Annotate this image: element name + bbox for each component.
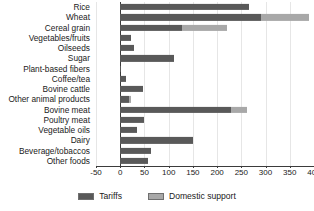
bar-row: [96, 2, 314, 12]
y-axis-label: Cereal grain: [0, 23, 93, 33]
chart-legend: TariffsDomestic support: [0, 188, 314, 204]
bar-segment-tariffs[interactable]: [120, 25, 182, 31]
y-axis-label: Bovine meat: [0, 105, 93, 115]
legend-label: Domestic support: [169, 191, 236, 201]
bar-segment-tariffs[interactable]: [120, 35, 131, 41]
plot-area: [96, 2, 314, 166]
legend-swatch: [148, 193, 164, 200]
x-axis-tick-label: 200: [210, 168, 223, 177]
bar-segment-tariffs[interactable]: [120, 158, 148, 164]
y-axis-label: Bovine cattle: [0, 84, 93, 94]
bar-segment-domestic-support[interactable]: [231, 107, 247, 113]
y-axis-label: Other foods: [0, 156, 93, 166]
bar-row: [96, 23, 314, 33]
y-axis-label: Wheat: [0, 12, 93, 22]
y-axis-label: Rice: [0, 2, 93, 12]
legend-swatch: [78, 193, 94, 200]
y-axis-label: Beverage/tobaccos: [0, 146, 93, 156]
bar-row: [96, 115, 314, 125]
x-axis-tick-label: -50: [90, 168, 102, 177]
legend-item[interactable]: Tariffs: [78, 191, 122, 201]
x-axis-tick-label: 250: [235, 168, 248, 177]
bar-row: [96, 64, 314, 74]
y-axis-label: Other animal products: [0, 94, 93, 104]
bar-segment-tariffs[interactable]: [120, 45, 134, 51]
stacked-bar[interactable]: [120, 66, 121, 72]
stacked-bar[interactable]: [120, 117, 144, 123]
bars-container: [96, 2, 314, 166]
stacked-bar[interactable]: [120, 137, 193, 143]
bar-chart: RiceWheatCereal grainVegetables/fruitsOi…: [0, 0, 314, 211]
stacked-bar[interactable]: [120, 76, 125, 82]
bar-segment-tariffs[interactable]: [120, 107, 230, 113]
y-axis-label: Oilseeds: [0, 43, 93, 53]
stacked-bar[interactable]: [120, 14, 309, 20]
y-axis-label: Dairy: [0, 135, 93, 145]
bar-segment-tariffs[interactable]: [120, 148, 151, 154]
stacked-bar[interactable]: [120, 158, 148, 164]
stacked-bar[interactable]: [120, 55, 174, 61]
bar-row: [96, 53, 314, 63]
bar-segment-tariffs[interactable]: [120, 127, 136, 133]
bar-segment-tariffs[interactable]: [120, 137, 193, 143]
x-axis: -50050100150200250300350400: [96, 166, 314, 180]
x-axis-tick-label: 400: [307, 168, 314, 177]
stacked-bar[interactable]: [120, 25, 227, 31]
stacked-bar[interactable]: [120, 45, 134, 51]
bar-row: [96, 156, 314, 166]
bar-row: [96, 43, 314, 53]
stacked-bar[interactable]: [120, 107, 246, 113]
legend-item[interactable]: Domestic support: [148, 191, 236, 201]
stacked-bar[interactable]: [120, 148, 151, 154]
bar-segment-tariffs[interactable]: [120, 117, 144, 123]
bar-segment-tariffs[interactable]: [120, 86, 142, 92]
stacked-bar[interactable]: [120, 86, 142, 92]
x-axis-tick-label: 0: [118, 168, 122, 177]
x-axis-tick-label: 350: [283, 168, 296, 177]
stacked-bar[interactable]: [120, 127, 136, 133]
y-axis-label: Plant-based fibers: [0, 64, 93, 74]
bar-row: [96, 33, 314, 43]
bar-segment-domestic-support[interactable]: [129, 96, 131, 102]
x-axis-tick-label: 300: [259, 168, 272, 177]
bar-row: [96, 146, 314, 156]
y-axis-category-labels: RiceWheatCereal grainVegetables/fruitsOi…: [0, 2, 93, 166]
bar-segment-domestic-support[interactable]: [261, 14, 309, 20]
x-axis-tick-label: 150: [186, 168, 199, 177]
stacked-bar[interactable]: [120, 96, 131, 102]
y-axis-label: Poultry meat: [0, 115, 93, 125]
bar-row: [96, 84, 314, 94]
bar-row: [96, 74, 314, 84]
bar-segment-domestic-support[interactable]: [182, 25, 227, 31]
bar-segment-tariffs[interactable]: [120, 96, 129, 102]
bar-row: [96, 135, 314, 145]
bar-segment-tariffs[interactable]: [120, 14, 260, 20]
bar-row: [96, 105, 314, 115]
y-axis-label: Coffee/tea: [0, 74, 93, 84]
x-axis-tick-label: 50: [140, 168, 149, 177]
stacked-bar[interactable]: [120, 4, 248, 10]
y-axis-label: Sugar: [0, 53, 93, 63]
bar-segment-tariffs[interactable]: [120, 66, 121, 72]
y-axis-label: Vegetable oils: [0, 125, 93, 135]
x-axis-tick-label: 100: [162, 168, 175, 177]
stacked-bar[interactable]: [120, 35, 131, 41]
bar-row: [96, 125, 314, 135]
y-axis-label: Vegetables/fruits: [0, 33, 93, 43]
bar-segment-tariffs[interactable]: [120, 55, 174, 61]
bar-segment-tariffs[interactable]: [120, 76, 125, 82]
legend-label: Tariffs: [99, 191, 122, 201]
bar-segment-tariffs[interactable]: [120, 4, 248, 10]
bar-row: [96, 94, 314, 104]
bar-row: [96, 12, 314, 22]
